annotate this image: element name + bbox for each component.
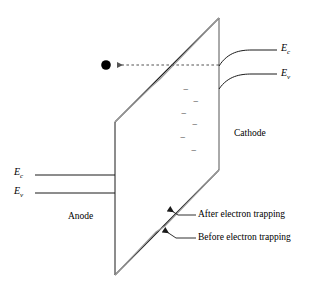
cathode-conduction-band-label: Ec — [281, 43, 290, 56]
anode-conduction-band-label: Ec — [14, 167, 23, 180]
cathode-valence-band-subscript: v — [287, 73, 290, 81]
cathode-band-edges — [219, 50, 277, 89]
anode-valence-band-subscript: v — [20, 191, 23, 199]
annotation-leaders — [164, 209, 196, 238]
trapped-electron-minus-sign: − — [180, 133, 186, 143]
anode-band-edges — [35, 175, 115, 193]
cathode-valence-band-label: Ev — [281, 68, 290, 81]
after-electron-trapping-label: After electron trapping — [198, 210, 285, 220]
band-diagram-figure: − − − − − − Ec Ev Ec Ev Anode Cathode Af… — [0, 0, 322, 292]
diagram-canvas — [0, 0, 322, 292]
electron-escape-path — [101, 60, 219, 70]
trapped-electron-minus-sign: − — [191, 146, 197, 156]
anode-conduction-band-subscript: c — [20, 172, 23, 180]
leader-after-electron-trapping — [169, 209, 196, 215]
cathode-valence-band-curve — [219, 74, 277, 89]
trapped-electron-minus-sign: − — [192, 120, 198, 130]
trapped-electron-minus-sign: − — [183, 85, 189, 95]
leader-before-electron-trapping — [164, 230, 196, 238]
anode-valence-band-label: Ev — [14, 186, 23, 199]
before-electron-trapping-label: Before electron trapping — [198, 233, 291, 243]
cathode-conduction-band-subscript: c — [287, 48, 290, 56]
trapped-electron-minus-sign: − — [181, 109, 187, 119]
cathode-label: Cathode — [234, 129, 266, 139]
cathode-conduction-band-curve — [219, 50, 277, 66]
electron-dot-icon — [101, 60, 111, 70]
anode-label: Anode — [68, 212, 93, 222]
trapped-electron-minus-sign: − — [193, 97, 199, 107]
